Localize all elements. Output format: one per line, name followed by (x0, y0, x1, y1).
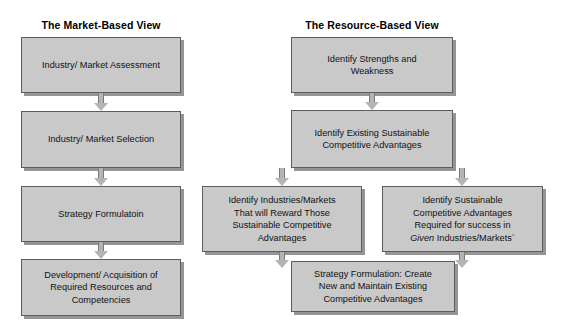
node-strategy-formulation-left[interactable]: Strategy Formulatoin (21, 186, 181, 242)
node-industry-market-assessment[interactable]: Industry/ Market Assessment (21, 37, 181, 93)
node-line-4: Advantages (258, 233, 307, 243)
node-line-1: Identify Existing Sustainable (315, 128, 430, 138)
node-line-1: Strategy Formulation: Create (314, 269, 432, 279)
node-line-2: Competitive Advantages (322, 140, 421, 150)
arrow-mbv-3-to-4 (94, 242, 108, 260)
node-label: Identify Existing Sustainable Competitiv… (297, 127, 447, 152)
arrow-rbv-1-to-2 (365, 93, 379, 110)
node-identify-sustainable-advantages-required[interactable]: Identify Sustainable Competitive Advanta… (382, 186, 543, 252)
node-label: Identify Sustainable Competitive Advanta… (388, 194, 537, 244)
node-line-3: Sustainable Competitive (232, 220, 331, 230)
node-identify-strengths-weakness[interactable]: Identify Strengths and Weakness (291, 37, 453, 93)
node-line-1: Development/ Acquisition of (44, 270, 157, 280)
column-title-market-based: The Market-Based View (21, 19, 181, 31)
node-line-3: Required for success in (414, 220, 510, 230)
node-identify-existing-sustainable-advantages[interactable]: Identify Existing Sustainable Competitiv… (291, 110, 453, 168)
node-line-4-rest: Industries/Markets` (434, 233, 515, 243)
arrow-rbv-3b-to-4 (455, 252, 469, 268)
node-label: Strategy Formulatoin (27, 208, 175, 221)
node-line-2: Weakness (351, 66, 394, 76)
arrow-mbv-2-to-3 (94, 168, 108, 186)
column-title-resource-based: The Resource-Based View (291, 19, 453, 31)
node-line-1: Identify Strengths and (327, 54, 416, 64)
node-label: Identify Strengths and Weakness (297, 53, 447, 78)
arrow-rbv-2-to-3a (275, 168, 289, 186)
node-line-3: Competitive Advantages (323, 294, 422, 304)
node-label: Industry/ Market Selection (27, 133, 175, 146)
node-development-acquisition[interactable]: Development/ Acquisition of Required Res… (21, 259, 181, 316)
node-label: Strategy Formulation: Create New and Mai… (297, 268, 449, 306)
arrow-rbv-2-to-3b (455, 168, 469, 186)
node-line-2: That will Reward Those (234, 208, 330, 218)
node-line-1: Identify Sustainable (422, 195, 502, 205)
node-label: Development/ Acquisition of Required Res… (27, 269, 175, 307)
node-label: Identify Industries/Markets That will Re… (208, 194, 356, 244)
node-identify-industries-markets-reward[interactable]: Identify Industries/Markets That will Re… (202, 186, 362, 252)
node-label: Industry/ Market Assessment (27, 59, 175, 72)
node-industry-market-selection[interactable]: Industry/ Market Selection (21, 111, 181, 168)
arrow-rbv-3a-to-4 (275, 252, 289, 268)
node-line-3: Competencies (72, 295, 131, 305)
arrow-mbv-1-to-2 (94, 93, 108, 111)
node-strategy-formulation-create-maintain[interactable]: Strategy Formulation: Create New and Mai… (291, 261, 455, 312)
node-line-2: New and Maintain Existing (319, 281, 427, 291)
node-line-1: Identify Industries/Markets (228, 195, 335, 205)
node-line-4-emphasis: Given (410, 233, 434, 243)
node-line-2: Competitive Advantages (413, 208, 512, 218)
node-line-2: Required Resources and (50, 282, 152, 292)
diagram-canvas: The Market-Based View The Resource-Based… (0, 0, 565, 333)
